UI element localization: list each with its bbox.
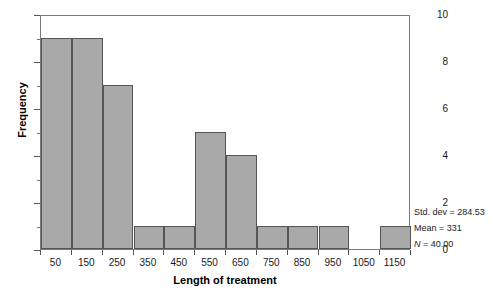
x-tick-label: 150	[78, 257, 95, 268]
histogram-bar	[226, 155, 257, 249]
y-tick-label: 0	[418, 245, 448, 255]
y-tick-major	[34, 15, 40, 16]
x-tick	[318, 250, 319, 255]
histogram-bar	[134, 226, 165, 250]
x-tick	[348, 250, 349, 255]
plot-frame	[40, 15, 410, 250]
x-tick-label: 50	[50, 257, 61, 268]
x-tick	[287, 250, 288, 255]
x-tick	[163, 250, 164, 255]
x-tick-label: 250	[109, 257, 126, 268]
x-tick-label: 650	[232, 257, 249, 268]
mean-text: Mean = 331	[414, 223, 493, 233]
y-tick-minor	[37, 227, 40, 228]
plot-area	[41, 16, 409, 249]
y-tick-minor	[37, 86, 40, 87]
y-tick-major	[34, 203, 40, 204]
y-tick-label: 6	[418, 104, 448, 114]
histogram-bar	[319, 226, 350, 250]
histogram-bar	[103, 85, 134, 250]
y-tick-label: 8	[418, 57, 448, 67]
x-tick	[40, 250, 41, 255]
histogram-bar	[380, 226, 411, 250]
histogram-bar	[72, 38, 103, 250]
x-axis-title: Length of treatment	[40, 274, 410, 286]
x-tick-label: 1050	[353, 257, 375, 268]
x-tick-label: 1150	[384, 257, 406, 268]
x-tick-label: 950	[325, 257, 342, 268]
x-tick	[410, 250, 411, 255]
x-tick-label: 750	[263, 257, 280, 268]
y-tick-minor	[37, 39, 40, 40]
y-tick-major	[34, 62, 40, 63]
histogram-bar	[195, 132, 226, 250]
x-tick	[102, 250, 103, 255]
x-tick	[133, 250, 134, 255]
x-tick-label: 350	[140, 257, 157, 268]
histogram-bar	[164, 226, 195, 250]
histogram-bar	[41, 38, 72, 250]
x-tick	[256, 250, 257, 255]
y-tick-label: 4	[418, 151, 448, 161]
y-tick-label: 2	[418, 198, 448, 208]
x-tick-label: 850	[294, 257, 311, 268]
std-dev-text: Std. dev = 284.53	[414, 207, 493, 217]
y-tick-major	[34, 156, 40, 157]
x-tick	[71, 250, 72, 255]
x-tick	[194, 250, 195, 255]
y-tick-minor	[37, 180, 40, 181]
histogram-figure: Frequency Length of treatment Std. dev =…	[0, 0, 493, 299]
histogram-bar	[257, 226, 288, 250]
y-tick-major	[34, 109, 40, 110]
histogram-bar	[288, 226, 319, 250]
x-tick-label: 450	[170, 257, 187, 268]
statistics-annotation: Std. dev = 284.53 Mean = 331 N = 40.00	[414, 207, 493, 249]
y-axis	[0, 0, 40, 299]
x-tick	[379, 250, 380, 255]
x-tick-label: 550	[201, 257, 218, 268]
y-tick-minor	[37, 133, 40, 134]
x-tick	[225, 250, 226, 255]
y-tick-label: 10	[418, 10, 448, 20]
